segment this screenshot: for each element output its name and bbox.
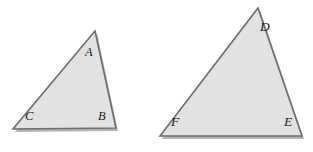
vertex-label-f: F [171,115,179,129]
triangle-def [160,8,302,136]
vertex-label-c: C [25,110,33,123]
vertex-label-b: B [98,110,106,123]
vertex-label-e: E [284,115,292,129]
vertex-label-d: D [260,20,270,34]
vertex-label-a: A [85,46,93,59]
geometry-figure: A B C D E F [0,0,313,152]
